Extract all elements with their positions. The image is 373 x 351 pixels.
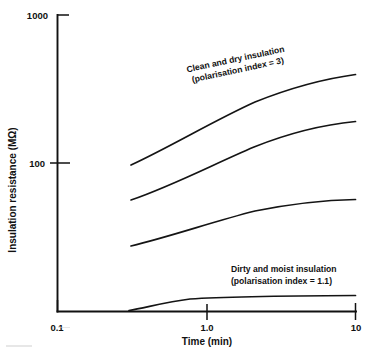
curve-intermediate-upper: [131, 122, 356, 201]
x-tick-label-10: 10: [351, 322, 362, 333]
annotation-dirty-and-moist-line1: Dirty and moist insulation: [231, 264, 337, 274]
x-tick-label-1.0: 1.0: [200, 322, 213, 333]
y-tick-label-100: 100: [29, 158, 45, 169]
insulation-resistance-chart: 1000 100 0.1 1.0 10 Time (min) Insulatio…: [0, 0, 373, 351]
scan-artifact: [58, 327, 70, 328]
annotation-dirty-and-moist-line2: (polarisation index = 1.1): [231, 276, 332, 286]
annotation-clean-and-dry: Clean and dry insulation (polarisation i…: [186, 44, 288, 85]
y-axis-title: Insulation resistance (MΩ): [7, 127, 18, 252]
scan-artifact: [6, 345, 32, 347]
y-tick-label-1000: 1000: [27, 10, 48, 21]
chart-canvas: 1000 100 0.1 1.0 10 Time (min) Insulatio…: [0, 0, 373, 351]
curve-dirty-and-moist: [129, 296, 356, 311]
curve-intermediate-lower: [131, 200, 356, 247]
x-axis-title: Time (min): [182, 336, 232, 347]
annotation-dirty-and-moist: Dirty and moist insulation (polarisation…: [231, 264, 337, 286]
